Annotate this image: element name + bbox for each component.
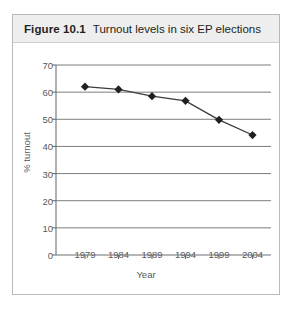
chart-svg — [13, 43, 281, 295]
series-line — [85, 87, 253, 135]
figure-container: Figure 10.1 Turnout levels in six EP ele… — [12, 14, 280, 295]
figure-caption-band: Figure 10.1 Turnout levels in six EP ele… — [13, 15, 279, 43]
series-markers-group — [81, 83, 257, 140]
data-point-marker — [148, 92, 156, 100]
data-point-marker — [248, 131, 256, 139]
data-point-marker — [215, 116, 223, 124]
axis-group — [56, 65, 271, 255]
data-point-marker — [181, 97, 189, 105]
data-point-marker — [81, 83, 89, 91]
gridlines-group — [56, 65, 271, 228]
series-line-group — [85, 87, 253, 135]
figure-caption-number: Figure 10.1 — [24, 23, 86, 35]
chart-plot-area: % turnout 010203040506070 19791984198919… — [13, 43, 279, 295]
figure-caption-title: Turnout levels in six EP elections — [93, 23, 261, 35]
